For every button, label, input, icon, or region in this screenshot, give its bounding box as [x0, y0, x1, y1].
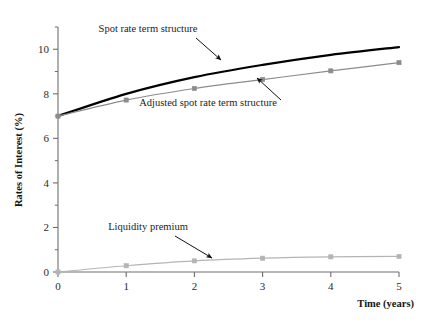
- y-tick-label: 6: [44, 132, 50, 144]
- x-tick-label: 4: [328, 280, 334, 292]
- chart-background: [0, 0, 421, 324]
- series-marker: [56, 270, 60, 274]
- x-tick-label: 5: [396, 280, 402, 292]
- y-tick-label: 2: [44, 221, 50, 233]
- series-marker: [261, 256, 265, 260]
- series-marker: [329, 255, 333, 259]
- x-axis-title: Time (years): [357, 298, 414, 310]
- y-axis-title: Rates of Interest (%): [13, 113, 25, 207]
- x-tick-label: 2: [192, 280, 198, 292]
- series-marker: [192, 86, 196, 90]
- annotation-label: Liquidity premium: [108, 221, 188, 232]
- series-marker: [329, 69, 333, 73]
- series-marker: [56, 114, 60, 118]
- chart-figure: 0246810 012345 Spot rate term structureA…: [0, 0, 421, 324]
- annotation-label: Spot rate term structure: [99, 23, 198, 34]
- series-marker: [124, 98, 128, 102]
- y-tick-label: 10: [38, 43, 50, 55]
- x-tick-label: 3: [260, 280, 266, 292]
- y-tick-label: 4: [44, 177, 50, 189]
- series-marker: [192, 259, 196, 263]
- y-tick-label: 8: [44, 88, 50, 100]
- chart-canvas: 0246810 012345 Spot rate term structureA…: [0, 0, 421, 324]
- annotation-label: Adjusted spot rate term structure: [139, 97, 277, 108]
- y-tick-label: 0: [44, 266, 50, 278]
- series-marker: [124, 264, 128, 268]
- series-marker: [397, 61, 401, 65]
- x-tick-label: 0: [55, 280, 61, 292]
- series-marker: [397, 254, 401, 258]
- series-marker: [261, 77, 265, 81]
- x-tick-label: 1: [123, 280, 129, 292]
